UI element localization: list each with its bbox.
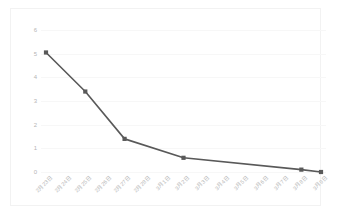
x-axis-tick-label: 2月24日 (55, 175, 74, 194)
x-axis-tick-label: 3月9日 (312, 175, 329, 192)
x-axis-tick-label: 2月26日 (94, 175, 113, 194)
y-axis-tick-label: 6 (15, 27, 37, 33)
y-axis-tick-label: 2 (15, 122, 37, 128)
line-series-svg (41, 30, 326, 172)
chart-container: 0123456 2月23日2月24日2月25日2月26日2月27日2月28日3月… (0, 0, 337, 217)
x-axis-tick-label: 2月25日 (74, 175, 93, 194)
x-axis-tick-label: 3月4日 (214, 175, 231, 192)
data-point-marker (44, 50, 48, 54)
y-axis-tick-label: 0 (15, 169, 37, 175)
x-axis-tick-label: 3月6日 (253, 175, 270, 192)
x-axis-tick-labels: 2月23日2月24日2月25日2月26日2月27日2月28日3月1日3月2日3月… (41, 173, 326, 215)
plot-area (41, 30, 326, 172)
series-line (46, 52, 321, 172)
y-axis-tick-labels: 0123456 (15, 30, 37, 172)
x-axis-tick-label: 2月23日 (35, 175, 54, 194)
data-point-marker (299, 168, 303, 172)
y-axis-tick-label: 1 (15, 145, 37, 151)
series-markers (44, 50, 323, 174)
x-axis-tick-label: 3月8日 (293, 175, 310, 192)
x-axis-tick-label: 3月1日 (155, 175, 172, 192)
x-axis-tick-label: 3月3日 (194, 175, 211, 192)
y-axis-tick-label: 3 (15, 98, 37, 104)
data-point-marker (181, 156, 185, 160)
chart-frame: 0123456 2月23日2月24日2月25日2月26日2月27日2月28日3月… (10, 8, 321, 206)
x-axis-tick-label: 2月27日 (114, 175, 133, 194)
data-point-marker (83, 89, 87, 93)
x-axis-tick-label: 3月7日 (273, 175, 290, 192)
y-axis-tick-label: 4 (15, 74, 37, 80)
x-axis-tick-label: 3月5日 (234, 175, 251, 192)
y-axis-tick-label: 5 (15, 51, 37, 57)
data-point-marker (122, 137, 126, 141)
x-axis-tick-label: 3月2日 (175, 175, 192, 192)
x-axis-tick-label: 2月28日 (133, 175, 152, 194)
